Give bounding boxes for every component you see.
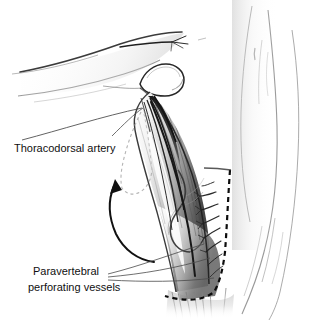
- label-paravertebral-line2: perforating vessels: [28, 281, 121, 293]
- curved-rotation-arrow: [110, 179, 154, 262]
- label-paravertebral-line1: Paravertebral: [33, 265, 99, 277]
- illustration-canvas: Thoracodorsal artery Paravertebral perfo…: [0, 0, 310, 321]
- abducted-arm: [12, 32, 206, 102]
- label-thoracodorsal-artery: Thoracodorsal artery: [14, 142, 116, 154]
- medical-illustration-figure: Thoracodorsal artery Paravertebral perfo…: [0, 0, 310, 321]
- torso-back-contour: [232, 0, 299, 320]
